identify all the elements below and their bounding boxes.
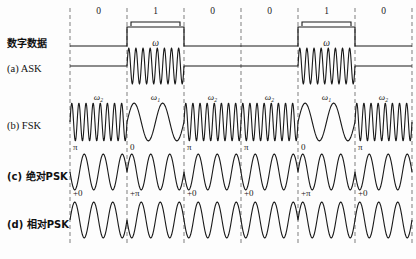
- psk-absolute-phase-label-5: π: [358, 142, 363, 152]
- row-label-digital-data: 数字数据: [7, 35, 47, 50]
- bit-bracket-4: [302, 22, 351, 26]
- psk-relative-phase-label-4: +π: [301, 188, 311, 198]
- bit-bracket-1: [131, 22, 180, 26]
- bit-label-2: 0: [210, 6, 215, 16]
- psk-absolute-phase-label-4: 0: [301, 142, 306, 152]
- fsk-frequency-symbol-5: ω₂: [379, 92, 388, 102]
- bit-label-4: 1: [324, 6, 329, 16]
- row-label-digital-data-text: 数字数据: [7, 38, 47, 49]
- psk-relative-phase-label-2: +0: [187, 188, 197, 198]
- row-label-fsk: (b) FSK: [7, 120, 41, 131]
- psk-relative-phase-label-5: +0: [358, 188, 368, 198]
- bit-label-3: 0: [267, 6, 272, 16]
- fsk-frequency-symbol-0: ω₂: [94, 92, 103, 102]
- row-label-psk-absolute: (c) 绝对PSK: [7, 168, 68, 183]
- row-label-psk-relative: (d) 相对PSK: [7, 216, 69, 231]
- bit-label-0: 0: [96, 6, 101, 16]
- row-label-psk-absolute-text: (c) 绝对PSK: [7, 171, 68, 182]
- fsk-frequency-symbol-2: ω₂: [208, 92, 217, 102]
- psk-absolute-phase-label-3: π: [244, 142, 249, 152]
- ask-carrier-symbol-1: ω: [152, 38, 159, 48]
- row-label-psk-relative-text: (d) 相对PSK: [7, 219, 69, 230]
- bit-label-5: 0: [381, 6, 386, 16]
- fsk-frequency-symbol-3: ω₂: [265, 92, 274, 102]
- modulation-figure: 010010ωωω₂ω₁ω₂ω₂ω₁ω₂π0ππ0π+0+π+0+0+π+0 数…: [0, 0, 416, 259]
- psk-absolute-phase-label-1: 0: [130, 142, 135, 152]
- row-label-fsk-text: (b) FSK: [7, 120, 41, 131]
- ask-carrier-symbol-4: ω: [323, 38, 330, 48]
- psk-relative-phase-label-3: +0: [244, 188, 254, 198]
- row-label-ask: (a) ASK: [7, 63, 42, 74]
- bit-label-1: 1: [153, 6, 158, 16]
- row-label-ask-text: (a) ASK: [7, 63, 42, 74]
- psk-absolute-phase-label-2: π: [187, 142, 192, 152]
- psk-relative-phase-label-0: +0: [73, 188, 83, 198]
- fsk-frequency-symbol-1: ω₁: [151, 92, 160, 102]
- fsk-frequency-symbol-4: ω₁: [322, 92, 331, 102]
- psk-absolute-phase-label-0: π: [73, 142, 78, 152]
- psk-relative-phase-label-1: +π: [130, 188, 140, 198]
